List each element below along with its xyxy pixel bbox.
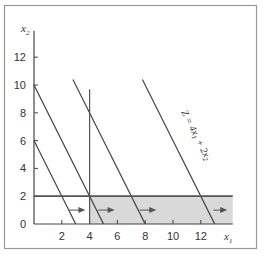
x-axis-title: x1	[223, 230, 232, 245]
y-tick-label: 12	[14, 51, 26, 63]
chart: 24681012024681012 x2 x1 Z = 4x1 + 2x2	[0, 0, 267, 262]
y-tick-label: 6	[20, 135, 26, 147]
x-tick-label: 10	[167, 230, 179, 242]
x-tick-label: 8	[142, 230, 148, 242]
x-tick-label: 12	[195, 230, 207, 242]
y-tick-label: 8	[20, 107, 26, 119]
objective-line-1	[34, 141, 76, 224]
x-tick-label: 6	[114, 230, 120, 242]
x-tick-label: 4	[87, 230, 93, 242]
y-tick-label: 0	[20, 218, 26, 230]
objective-line-2	[34, 85, 104, 224]
y-tick-label: 4	[20, 162, 26, 174]
y-tick-label: 2	[20, 190, 26, 202]
y-axis-title: x2	[20, 22, 30, 37]
x-tick-label: 2	[59, 230, 65, 242]
objective-line-label: Z = 4x1 + 2x2	[177, 108, 214, 163]
y-tick-label: 10	[14, 79, 26, 91]
arrow-head-icon	[78, 207, 85, 213]
